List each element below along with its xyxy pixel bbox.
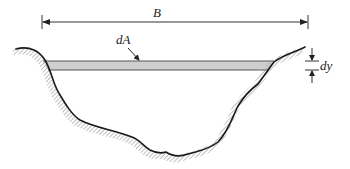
label-dA: dA (116, 32, 131, 47)
dA-leader-arrow (128, 48, 139, 60)
strip-area-callout: dA (116, 32, 139, 60)
strip-thickness-dimension: dy (305, 48, 333, 83)
strip-dA (43, 61, 274, 70)
label-dy: dy (320, 58, 333, 73)
label-B: B (153, 5, 161, 20)
strip-fill (43, 61, 274, 70)
channel-cross-section-diagram: B dA dy (0, 0, 350, 169)
top-width-dimension: B (42, 5, 308, 29)
